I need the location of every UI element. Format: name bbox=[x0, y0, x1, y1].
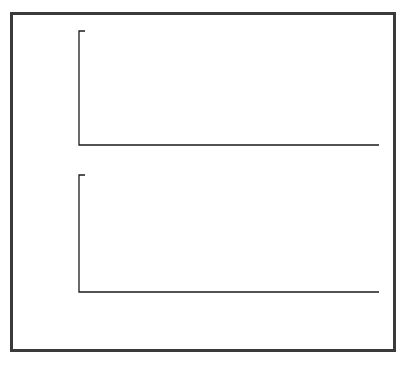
top-panel-axes bbox=[79, 31, 379, 145]
chart-canvas bbox=[0, 0, 407, 367]
figure-plot-stage bbox=[0, 0, 407, 367]
bottom-panel-axes bbox=[79, 175, 379, 292]
